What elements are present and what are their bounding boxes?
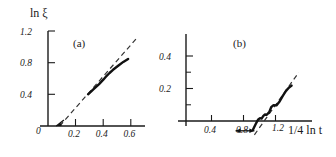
panel-a: 1.2 0.8 0.4 0 0.2 0.4 0.6 (a) [20,27,145,140]
panel-a-xticklabel-2: 0.6 [123,129,135,139]
y-axis-label: ln ξ [30,6,48,20]
panel-a-yticklabel-1: 0.8 [20,58,32,68]
panel-b-label: (b) [233,37,246,50]
panel-a-asymptote-dashed [60,37,138,126]
panel-b: 0.4 0.2 0.4 0.8 1.2 (b) 1/4 ln t [159,34,323,137]
panel-a-label: (a) [73,37,86,50]
panel-a-xticklabel-0: 0.2 [68,129,80,139]
panel-a-yticklabel-0: 1.2 [20,27,32,37]
panel-a-yticklabel-2: 0.4 [20,90,32,100]
panel-b-xticklabel-2: 1.2 [272,123,284,133]
panel-a-data-curve [88,59,128,94]
panel-b-xticklabel-0: 0.4 [204,125,216,135]
figure-svg: ln ξ 1.2 0.8 0.4 0 0.2 0.4 0.6 (a) [0,0,336,157]
panel-b-yticklabel-0: 0.4 [159,52,171,62]
x-axis-label: 1/4 ln t [288,123,323,137]
figure-container: ln ξ 1.2 0.8 0.4 0 0.2 0.4 0.6 (a) [0,0,336,157]
panel-a-xticklabel-1: 0.4 [96,129,108,139]
panel-b-yticklabel-1: 0.2 [159,84,171,94]
panel-a-origin-label: 0 [36,126,41,136]
